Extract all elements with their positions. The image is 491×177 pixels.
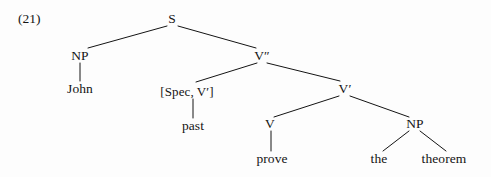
branch-v-prime-to-v-head [274,96,339,117]
leaf-john: John [67,82,93,96]
syntax-tree-figure: (21) S NP John V″ [Spec, V′] past V′ V p… [0,0,491,177]
leaf-prove: prove [256,152,287,166]
node-spec-v-prime: [Spec, V′] [160,85,213,98]
node-np-object: NP [406,117,423,131]
branch-v-double-prime-to-v-prime [267,63,340,81]
branch-s-to-v-double-prime [178,26,256,48]
node-v-head: V [265,117,275,131]
leaf-theorem: theorem [422,152,467,166]
branch-v-double-prime-to-spec [196,63,257,82]
leaf-past: past [182,119,204,133]
node-np-subject: NP [71,49,88,63]
node-s: S [168,12,176,26]
node-v-double-prime: V″ [254,49,270,63]
leaf-the: the [371,152,388,166]
example-number: (21) [18,11,41,27]
branch-np-object-to-the [383,131,409,151]
node-v-prime: V′ [339,82,352,96]
branch-np-object-to-theorem [420,131,446,151]
branch-v-prime-to-np-object [350,96,409,117]
branch-s-to-np-subject [88,26,167,48]
